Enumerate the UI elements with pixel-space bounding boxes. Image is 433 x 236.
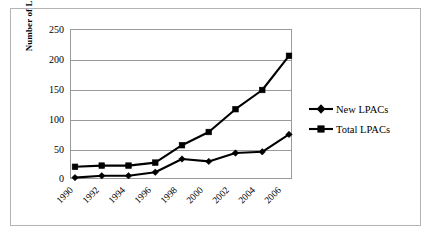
data-point-marker bbox=[206, 158, 212, 164]
chart-figure: Number of LPACs 250 200 150 100 50 0 199… bbox=[0, 0, 433, 236]
y-tick-label-0: 0 bbox=[30, 174, 64, 184]
data-point-marker bbox=[126, 163, 132, 169]
data-point-marker bbox=[259, 87, 265, 93]
chart-legend: New LPACs Total LPACs bbox=[308, 99, 390, 139]
square-icon bbox=[308, 122, 334, 136]
data-point-marker bbox=[206, 129, 212, 135]
data-point-marker bbox=[99, 173, 105, 179]
y-axis-title: Number of LPACs bbox=[24, 0, 34, 80]
legend-item-total-lpacs: Total LPACs bbox=[308, 119, 390, 139]
y-tick-label-250: 250 bbox=[30, 25, 64, 35]
y-tick-label-50: 50 bbox=[30, 145, 64, 155]
data-point-marker bbox=[286, 53, 292, 59]
data-point-marker bbox=[125, 173, 131, 179]
series-plot bbox=[71, 30, 293, 180]
data-point-marker bbox=[72, 174, 78, 180]
data-point-marker bbox=[152, 160, 158, 166]
series-markers-new-lpacs bbox=[72, 131, 292, 181]
legend-label-new-lpacs: New LPACs bbox=[336, 104, 388, 115]
diamond-icon bbox=[308, 102, 334, 116]
y-tick-label-100: 100 bbox=[30, 115, 64, 125]
legend-item-new-lpacs: New LPACs bbox=[308, 99, 390, 119]
data-point-marker bbox=[72, 164, 78, 170]
series-line-total-lpacs bbox=[75, 56, 289, 167]
data-point-marker bbox=[179, 142, 185, 148]
data-point-marker bbox=[232, 150, 238, 156]
data-point-marker bbox=[233, 106, 239, 112]
data-point-marker bbox=[99, 163, 105, 169]
legend-label-total-lpacs: Total LPACs bbox=[336, 124, 390, 135]
plot-area bbox=[70, 29, 292, 179]
y-tick-label-200: 200 bbox=[30, 55, 64, 65]
y-tick-label-150: 150 bbox=[30, 85, 64, 95]
